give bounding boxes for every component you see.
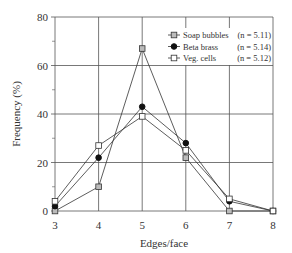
y-tick-label: 80: [37, 11, 49, 23]
legend-n-value: (n = 5.14): [237, 42, 271, 52]
legend-n-value: (n = 5.12): [237, 53, 271, 63]
legend-label: Veg. cells: [183, 53, 216, 63]
gray-square-marker-icon: [183, 155, 189, 161]
x-tick-label: 4: [96, 219, 102, 231]
circle-marker-icon: [96, 155, 102, 161]
y-tick-label: 20: [37, 157, 49, 169]
axes: [51, 17, 55, 211]
circle-marker-icon: [139, 104, 145, 110]
series-line: [55, 116, 273, 211]
circle-marker-icon: [171, 44, 177, 50]
line-chart: 345678020406080 Soap bubbles(n = 5.11)Be…: [0, 0, 292, 253]
legend: Soap bubbles(n = 5.11)Beta brass(n = 5.1…: [164, 28, 272, 65]
legend-n-value: (n = 5.11): [237, 30, 271, 40]
open-square-marker-icon: [52, 199, 58, 205]
open-square-marker-icon: [96, 143, 102, 149]
gray-square-marker-icon: [139, 46, 145, 52]
legend-label: Beta brass: [183, 42, 218, 52]
y-tick-label: 40: [37, 108, 49, 120]
open-square-marker-icon: [139, 114, 145, 120]
series-soap-bubbles: [52, 46, 276, 214]
gray-square-marker-icon: [96, 184, 102, 190]
y-axis-label: Frequency (%): [10, 81, 23, 147]
x-tick-label: 5: [139, 219, 145, 231]
series-line: [55, 49, 273, 211]
legend-label: Soap bubbles: [183, 30, 229, 40]
data-series: [52, 46, 276, 214]
series-beta-brass: [52, 104, 276, 214]
open-square-marker-icon: [270, 208, 276, 214]
open-square-marker-icon: [171, 55, 177, 61]
open-square-marker-icon: [183, 148, 189, 154]
x-axis-label: Edges/face: [140, 237, 188, 249]
y-tick-label: 0: [43, 205, 49, 217]
x-tick-label: 6: [183, 219, 189, 231]
open-square-marker-icon: [227, 196, 233, 202]
x-tick-label: 7: [227, 219, 233, 231]
circle-marker-icon: [183, 140, 189, 146]
x-tick-label: 8: [270, 219, 276, 231]
gray-square-marker-icon: [227, 208, 233, 214]
x-tick-label: 3: [52, 219, 58, 231]
y-tick-label: 60: [37, 60, 49, 72]
series-veg-cells: [52, 114, 276, 214]
gray-square-marker-icon: [171, 32, 177, 38]
legend-item: Soap bubbles(n = 5.11): [168, 30, 271, 40]
